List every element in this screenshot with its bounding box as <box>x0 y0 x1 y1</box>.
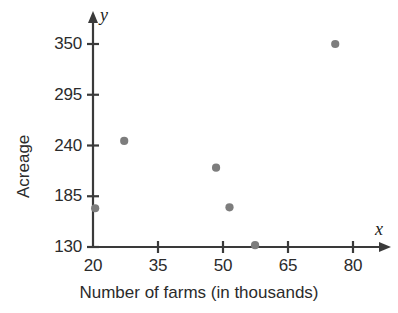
data-point <box>331 40 339 48</box>
x-tick-label: 35 <box>133 256 183 276</box>
x-tick-label: 50 <box>198 256 248 276</box>
y-tick-label: 185 <box>54 186 82 206</box>
y-tick-label: 295 <box>54 85 82 105</box>
data-points-group <box>91 40 339 249</box>
axis-ticks-group <box>87 44 353 253</box>
x-axis-arrow-icon <box>379 242 391 252</box>
y-axis-symbol-label: y <box>100 5 108 26</box>
data-point <box>225 203 233 211</box>
x-tick-label: 20 <box>68 256 118 276</box>
y-axis-arrow-icon <box>88 11 98 23</box>
data-point <box>251 241 259 249</box>
x-tick-label: 65 <box>263 256 313 276</box>
y-axis-title: Acreage <box>14 135 34 198</box>
scatter-plot-figure: 1301852402953502035506580 x y Acreage Nu… <box>0 0 398 313</box>
axes-group <box>88 11 391 252</box>
y-tick-label: 130 <box>54 237 82 257</box>
x-axis-title: Number of farms (in thousands) <box>0 283 398 303</box>
data-point <box>91 204 99 212</box>
y-tick-label: 350 <box>54 34 82 54</box>
x-axis-symbol-label: x <box>375 219 383 240</box>
y-tick-label: 240 <box>54 136 82 156</box>
data-point <box>120 137 128 145</box>
x-tick-label: 80 <box>328 256 378 276</box>
data-point <box>212 164 220 172</box>
